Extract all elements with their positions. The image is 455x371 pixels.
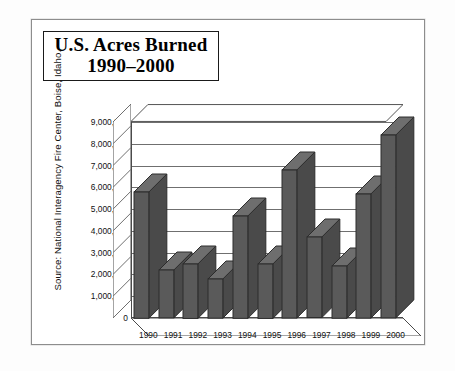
bar <box>258 264 273 318</box>
x-axis-tick-label: 1993 <box>213 330 232 340</box>
y-axis-tick-label: 0 <box>123 313 128 323</box>
y-axis-tick-label: 1,000,000 <box>91 291 128 301</box>
y-axis-tick-label: 6,000,000 <box>91 182 128 192</box>
bar-chart: 9,000,0008,000,0007,000,0006,000,0005,00… <box>87 96 417 351</box>
back-wall-top <box>131 104 403 122</box>
bar-series <box>131 122 403 318</box>
bar <box>134 192 149 318</box>
chart-title-line-2: 1990–2000 <box>87 56 174 77</box>
bar <box>332 266 347 318</box>
y-axis-tick-label: 7,000,000 <box>91 161 128 171</box>
x-axis-tick-label: 1995 <box>263 330 282 340</box>
y-axis-tick-label: 2,000,000 <box>91 269 128 279</box>
x-axis-tick-label: 1991 <box>164 330 183 340</box>
figure-page: U.S. Acres Burned 1990–2000 Source: Nati… <box>0 0 455 371</box>
x-axis-tick-label: 1998 <box>337 330 356 340</box>
y-axis-tick-label: 4,000,000 <box>91 226 128 236</box>
source-caption: Source: National Interagency Fire Center… <box>52 61 63 291</box>
bar-prism <box>381 117 414 318</box>
y-axis-tick-label: 5,000,000 <box>91 204 128 214</box>
bar <box>159 270 174 318</box>
bar <box>381 135 396 318</box>
x-axis-tick-label: 1997 <box>312 330 331 340</box>
y-axis-tick-label: 3,000,000 <box>91 248 128 258</box>
bar <box>282 170 297 318</box>
x-axis-tick-label: 1990 <box>139 330 158 340</box>
bar <box>208 279 223 318</box>
x-axis-tick-label: 1992 <box>188 330 207 340</box>
y-axis-tick-labels: 9,000,0008,000,0007,000,0006,000,0005,00… <box>87 122 128 318</box>
bar <box>356 194 371 318</box>
y-axis-tick-label: 9,000,000 <box>91 117 128 127</box>
x-axis-tick-label: 1999 <box>362 330 381 340</box>
chart-title-line-1: U.S. Acres Burned <box>55 35 208 56</box>
y-axis-tick-label: 8,000,000 <box>91 139 128 149</box>
bar <box>233 216 248 318</box>
figure-frame: U.S. Acres Burned 1990–2000 Source: Nati… <box>31 19 425 345</box>
bar <box>183 264 198 318</box>
x-axis-tick-labels: 1990199119921993199419951996199719981999… <box>131 324 421 342</box>
bar <box>307 237 322 318</box>
x-axis-tick-label: 1996 <box>287 330 306 340</box>
x-axis-tick-label: 1994 <box>238 330 257 340</box>
x-axis-tick-label: 2000 <box>386 330 405 340</box>
chart-title-box: U.S. Acres Burned 1990–2000 <box>43 31 219 81</box>
